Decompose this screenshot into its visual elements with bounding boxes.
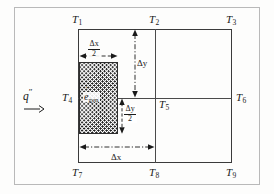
- dimension-label-dx: Δx: [110, 152, 122, 162]
- dimension-label-dx-half: Δx 2: [88, 40, 100, 58]
- node-label-T8: T8: [149, 167, 159, 178]
- heat-flux-superscript: ″: [29, 87, 32, 97]
- node-label-T7: T7: [72, 167, 82, 178]
- node-label-T1: T1: [72, 14, 82, 25]
- heat-flux-label: q″: [23, 88, 32, 102]
- node-label-T3: T3: [226, 14, 236, 25]
- node-label-T9: T9: [226, 167, 236, 178]
- right-arrow-icon: [23, 104, 45, 114]
- node-label-T5: T5: [159, 99, 169, 110]
- heat-flux-group: q″: [23, 88, 53, 122]
- node-label-T2: T2: [149, 14, 159, 25]
- node-label-T6: T6: [236, 92, 246, 103]
- grid-line-vertical: [155, 29, 156, 163]
- finite-difference-diagram: egen q″ T1 T2 T3 T4 T5 T6 T7 T8 T9: [0, 0, 274, 194]
- energy-generation-label: egen: [83, 92, 100, 102]
- node-label-T4: T4: [62, 92, 72, 103]
- e-gen-subscript: gen: [88, 96, 98, 104]
- dimension-label-dy: Δy: [136, 58, 148, 68]
- dimension-label-dy-half: Δy 2: [123, 105, 137, 123]
